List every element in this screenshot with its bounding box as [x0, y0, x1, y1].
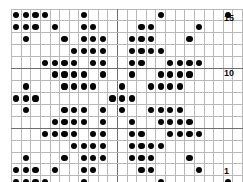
chart-cell-filled[interactable] — [98, 152, 108, 164]
chart-cell-empty[interactable] — [233, 57, 243, 69]
chart-cell-filled[interactable] — [60, 69, 70, 81]
chart-cell-filled[interactable] — [175, 116, 185, 128]
chart-cell-empty[interactable] — [108, 57, 118, 69]
chart-cell-empty[interactable] — [79, 128, 89, 140]
chart-cell-filled[interactable] — [127, 69, 137, 81]
chart-cell-empty[interactable] — [166, 21, 176, 33]
chart-cell-empty[interactable] — [185, 164, 195, 176]
chart-cell-empty[interactable] — [31, 104, 41, 116]
chart-cell-filled[interactable] — [21, 164, 31, 176]
chart-cell-empty[interactable] — [40, 116, 50, 128]
chart-cell-filled[interactable] — [137, 57, 147, 69]
chart-cell-filled[interactable] — [146, 152, 156, 164]
chart-cell-empty[interactable] — [146, 176, 156, 182]
chart-cell-empty[interactable] — [223, 57, 233, 69]
chart-cell-empty[interactable] — [40, 81, 50, 93]
chart-cell-empty[interactable] — [98, 9, 108, 21]
chart-cell-empty[interactable] — [60, 176, 70, 182]
chart-cell-empty[interactable] — [204, 176, 214, 182]
chart-cell-filled[interactable] — [98, 128, 108, 140]
chart-cell-filled[interactable] — [127, 116, 137, 128]
chart-cell-empty[interactable] — [108, 9, 118, 21]
chart-cell-filled[interactable] — [98, 140, 108, 152]
chart-cell-filled[interactable] — [40, 176, 50, 182]
chart-cell-empty[interactable] — [223, 152, 233, 164]
chart-cell-empty[interactable] — [108, 81, 118, 93]
chart-cell-empty[interactable] — [214, 140, 224, 152]
chart-cell-filled[interactable] — [79, 152, 89, 164]
chart-cell-empty[interactable] — [214, 128, 224, 140]
chart-cell-filled[interactable] — [89, 33, 99, 45]
chart-cell-filled[interactable] — [117, 81, 127, 93]
chart-cell-empty[interactable] — [166, 140, 176, 152]
chart-cell-filled[interactable] — [223, 176, 233, 182]
chart-cell-empty[interactable] — [40, 92, 50, 104]
chart-cell-empty[interactable] — [69, 21, 79, 33]
chart-cell-empty[interactable] — [50, 140, 60, 152]
chart-cell-empty[interactable] — [50, 104, 60, 116]
chart-cell-empty[interactable] — [204, 92, 214, 104]
chart-cell-empty[interactable] — [233, 152, 243, 164]
chart-cell-filled[interactable] — [175, 81, 185, 93]
chart-cell-empty[interactable] — [156, 21, 166, 33]
chart-cell-empty[interactable] — [214, 69, 224, 81]
chart-cell-filled[interactable] — [69, 81, 79, 93]
chart-cell-filled[interactable] — [40, 57, 50, 69]
chart-cell-filled[interactable] — [137, 21, 147, 33]
chart-cell-empty[interactable] — [137, 176, 147, 182]
chart-cell-filled[interactable] — [156, 116, 166, 128]
chart-cell-empty[interactable] — [185, 176, 195, 182]
chart-cell-empty[interactable] — [185, 21, 195, 33]
chart-cell-empty[interactable] — [137, 92, 147, 104]
chart-cell-filled[interactable] — [98, 69, 108, 81]
chart-cell-empty[interactable] — [223, 92, 233, 104]
chart-cell-empty[interactable] — [108, 164, 118, 176]
chart-cell-empty[interactable] — [137, 116, 147, 128]
chart-cell-filled[interactable] — [146, 45, 156, 57]
chart-cell-empty[interactable] — [108, 21, 118, 33]
chart-cell-empty[interactable] — [233, 140, 243, 152]
chart-cell-empty[interactable] — [194, 116, 204, 128]
chart-cell-empty[interactable] — [108, 69, 118, 81]
chart-cell-empty[interactable] — [31, 33, 41, 45]
chart-cell-empty[interactable] — [117, 176, 127, 182]
chart-cell-filled[interactable] — [146, 140, 156, 152]
chart-cell-empty[interactable] — [21, 128, 31, 140]
chart-cell-empty[interactable] — [12, 69, 22, 81]
chart-cell-empty[interactable] — [117, 164, 127, 176]
chart-cell-empty[interactable] — [194, 140, 204, 152]
chart-cell-empty[interactable] — [175, 21, 185, 33]
chart-cell-empty[interactable] — [194, 81, 204, 93]
chart-cell-filled[interactable] — [79, 81, 89, 93]
chart-cell-empty[interactable] — [204, 140, 214, 152]
chart-cell-empty[interactable] — [40, 152, 50, 164]
chart-cell-filled[interactable] — [127, 140, 137, 152]
chart-cell-empty[interactable] — [31, 152, 41, 164]
chart-cell-filled[interactable] — [156, 9, 166, 21]
chart-cell-empty[interactable] — [233, 164, 243, 176]
chart-cell-empty[interactable] — [233, 69, 243, 81]
chart-cell-empty[interactable] — [156, 128, 166, 140]
chart-cell-empty[interactable] — [12, 152, 22, 164]
chart-cell-empty[interactable] — [98, 21, 108, 33]
chart-cell-empty[interactable] — [185, 92, 195, 104]
chart-cell-empty[interactable] — [156, 92, 166, 104]
chart-cell-empty[interactable] — [156, 164, 166, 176]
chart-cell-empty[interactable] — [40, 45, 50, 57]
chart-cell-filled[interactable] — [79, 176, 89, 182]
chart-cell-empty[interactable] — [223, 81, 233, 93]
chart-cell-empty[interactable] — [185, 140, 195, 152]
chart-cell-filled[interactable] — [40, 9, 50, 21]
chart-cell-filled[interactable] — [21, 104, 31, 116]
chart-cell-filled[interactable] — [79, 140, 89, 152]
chart-cell-empty[interactable] — [31, 128, 41, 140]
chart-cell-filled[interactable] — [50, 21, 60, 33]
chart-cell-filled[interactable] — [98, 104, 108, 116]
chart-cell-empty[interactable] — [108, 116, 118, 128]
chart-cell-filled[interactable] — [194, 21, 204, 33]
chart-cell-filled[interactable] — [69, 128, 79, 140]
chart-cell-empty[interactable] — [223, 140, 233, 152]
chart-cell-empty[interactable] — [194, 92, 204, 104]
chart-cell-empty[interactable] — [194, 33, 204, 45]
chart-cell-empty[interactable] — [12, 33, 22, 45]
